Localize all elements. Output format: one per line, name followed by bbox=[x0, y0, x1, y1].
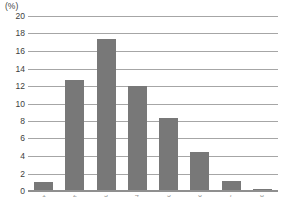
x-tick-label: 6 bbox=[198, 195, 202, 198]
bar bbox=[65, 80, 84, 191]
x-tick-label: 4 bbox=[135, 195, 139, 198]
x-tick-label: 3 bbox=[104, 195, 108, 198]
bar bbox=[190, 152, 209, 191]
y-tick-label-2: 2 bbox=[1, 170, 25, 179]
x-tick-label: 2 bbox=[73, 195, 77, 198]
bars-group bbox=[28, 16, 278, 191]
bar bbox=[128, 86, 147, 191]
y-axis-tick-labels: 20181614121086420 bbox=[0, 16, 25, 191]
gridline-0 bbox=[28, 191, 278, 192]
y-tick-label-6: 6 bbox=[1, 134, 25, 143]
y-tick-label-4: 4 bbox=[1, 152, 25, 161]
y-tick-label-12: 12 bbox=[1, 82, 25, 91]
y-tick-label-0: 0 bbox=[1, 187, 25, 196]
x-tick-label: 1 bbox=[42, 195, 46, 198]
bar-chart: (%) 20181614121086420 12345678 bbox=[0, 0, 283, 201]
x-axis-label-strip: 12345678 bbox=[28, 195, 278, 201]
y-tick-label-16: 16 bbox=[1, 47, 25, 56]
y-tick-label-18: 18 bbox=[1, 29, 25, 38]
x-tick-label: 7 bbox=[229, 195, 233, 198]
plot-area bbox=[28, 16, 278, 191]
bar bbox=[97, 39, 116, 191]
x-tick-label: 5 bbox=[167, 195, 171, 198]
y-tick-label-10: 10 bbox=[1, 100, 25, 109]
y-tick-label-20: 20 bbox=[1, 12, 25, 21]
bar bbox=[159, 118, 178, 191]
y-tick-label-14: 14 bbox=[1, 65, 25, 74]
x-axis-line bbox=[28, 190, 278, 191]
x-tick-label: 8 bbox=[260, 195, 264, 198]
y-tick-label-8: 8 bbox=[1, 117, 25, 126]
